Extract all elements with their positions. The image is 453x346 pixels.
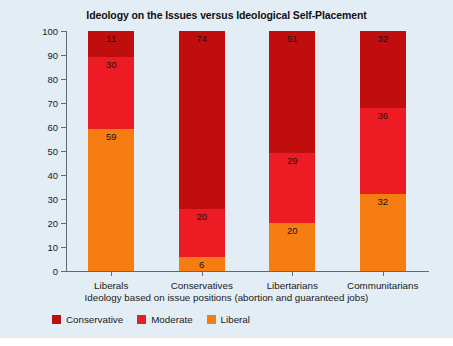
y-tick-label: 0: [32, 266, 58, 277]
bar-value-label: 30: [106, 60, 117, 70]
bar-value-label: 36: [377, 111, 388, 121]
x-category-label: Libertarians: [247, 280, 337, 291]
y-tick-label: 30: [32, 194, 58, 205]
bar-group[interactable]: 62074Conservatives: [179, 31, 225, 271]
y-tick-label: 60: [32, 122, 58, 133]
bar-segment-moderate[interactable]: 30: [88, 57, 134, 129]
legend-item-liberal[interactable]: Liberal: [207, 314, 250, 325]
x-tick-mark: [383, 271, 384, 276]
legend-swatch-icon: [207, 315, 216, 324]
legend-label: Moderate: [151, 314, 192, 325]
bar-group[interactable]: 323632Communitarians: [360, 31, 406, 271]
bar-value-label: 20: [196, 212, 207, 222]
x-category-label: Communitarians: [338, 280, 428, 291]
x-axis-title: Ideology based on issue positions (abort…: [0, 292, 453, 303]
bar-group[interactable]: 202951Libertarians: [269, 31, 315, 271]
bar-segment-conservative[interactable]: 74: [179, 31, 225, 209]
stacked-bar[interactable]: 202951: [269, 31, 315, 271]
legend-item-moderate[interactable]: Moderate: [137, 314, 192, 325]
stacked-bar[interactable]: 323632: [360, 31, 406, 271]
y-tick-mark: [61, 79, 66, 80]
y-tick-mark: [61, 127, 66, 128]
bar-segment-liberal[interactable]: 32: [360, 194, 406, 271]
y-tick-label: 70: [32, 98, 58, 109]
x-tick-mark: [111, 271, 112, 276]
bar-group[interactable]: 593011Liberals: [88, 31, 134, 271]
bar-segment-conservative[interactable]: 11: [88, 31, 134, 57]
stacked-bar[interactable]: 62074: [179, 31, 225, 271]
bar-value-label: 32: [377, 34, 388, 44]
y-tick-mark: [61, 247, 66, 248]
y-tick-mark: [61, 31, 66, 32]
y-tick-mark: [61, 103, 66, 104]
bar-value-label: 20: [287, 226, 298, 236]
legend-item-conservative[interactable]: Conservative: [52, 314, 123, 325]
y-tick-label: 80: [32, 74, 58, 85]
bar-segment-liberal[interactable]: 20: [269, 223, 315, 271]
bar-value-label: 11: [106, 34, 116, 44]
y-tick-mark: [61, 199, 66, 200]
bar-value-label: 29: [287, 156, 298, 166]
chart-title: Ideology on the Issues versus Ideologica…: [0, 9, 453, 21]
legend-swatch-icon: [52, 315, 61, 324]
bar-segment-liberal[interactable]: 59: [88, 129, 134, 271]
y-tick-mark: [61, 223, 66, 224]
bar-segment-moderate[interactable]: 20: [179, 209, 225, 257]
legend-label: Conservative: [66, 314, 123, 325]
legend-label: Liberal: [221, 314, 250, 325]
x-category-label: Conservatives: [157, 280, 247, 291]
plot-area: Percent in each ideological self-placeme…: [66, 31, 428, 271]
x-category-label: Liberals: [66, 280, 156, 291]
chart-figure: Ideology on the Issues versus Ideologica…: [0, 0, 453, 338]
y-tick-label: 100: [32, 26, 58, 37]
y-tick-mark: [61, 175, 66, 176]
bar-segment-moderate[interactable]: 36: [360, 108, 406, 194]
chart-legend: ConservativeModerateLiberal: [52, 314, 250, 325]
x-tick-mark: [202, 271, 203, 276]
bar-value-label: 74: [196, 34, 207, 44]
bar-value-label: 32: [377, 197, 388, 207]
bar-value-label: 51: [287, 34, 298, 44]
y-tick-mark: [61, 151, 66, 152]
y-tick-label: 20: [32, 218, 58, 229]
y-tick-label: 90: [32, 50, 58, 61]
y-tick-mark: [61, 271, 66, 272]
bar-segment-conservative[interactable]: 51: [269, 31, 315, 153]
stacked-bar[interactable]: 593011: [88, 31, 134, 271]
bar-segment-liberal[interactable]: 6: [179, 257, 225, 271]
bar-value-label: 59: [106, 132, 117, 142]
bar-value-label: 6: [199, 260, 204, 270]
bar-segment-moderate[interactable]: 29: [269, 153, 315, 223]
figure-bottom-margin: [0, 338, 453, 346]
y-tick-label: 50: [32, 146, 58, 157]
x-tick-mark: [292, 271, 293, 276]
y-tick-label: 10: [32, 242, 58, 253]
x-axis-line: [66, 271, 429, 272]
y-tick-label: 40: [32, 170, 58, 181]
y-tick-mark: [61, 55, 66, 56]
legend-swatch-icon: [137, 315, 146, 324]
bar-segment-conservative[interactable]: 32: [360, 31, 406, 108]
